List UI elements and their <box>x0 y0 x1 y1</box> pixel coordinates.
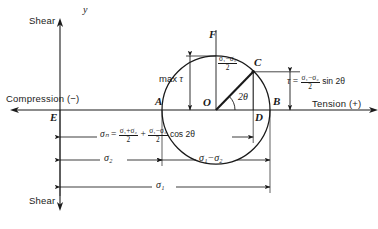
mohrs-circle-figure: y Shear Shear Compression (−) Tension (+… <box>0 0 378 229</box>
radius-fraction-denominator: 2 <box>218 63 237 72</box>
tau-equation-trig: sin 2θ <box>322 76 345 86</box>
shear-bottom-label: Shear <box>29 196 55 206</box>
axis-lines <box>10 18 378 211</box>
sigma-n-equation-equals: = <box>111 129 116 139</box>
sigma-n-equation-label: σₙ = σ₁+σ₂ 2 + σ₁−σ₂ 2 cos 2θ <box>100 127 195 143</box>
compression-axis-label: Compression (−) <box>6 94 79 104</box>
max-tau-prefix: max <box>159 73 177 84</box>
radius-fraction: σ₁−σ₂ 2 <box>218 55 237 71</box>
tension-axis-label: Tension (+) <box>312 99 361 109</box>
sigma-n-term2-denominator: 2 <box>148 135 167 144</box>
point-label-F: F <box>209 29 216 40</box>
radius-fraction-numerator: σ₁−σ₂ <box>218 55 237 63</box>
dimension-label-sigma-diff: σ₁−σ₂ <box>199 153 223 163</box>
tau-equation-equals: = <box>293 76 298 86</box>
tau-equation-lhs: τ <box>287 76 290 86</box>
sigma-n-equation-plus: + <box>140 129 145 139</box>
radius-fraction-label: σ₁−σ₂ 2 <box>218 55 237 71</box>
sigma-n-term2-numerator: σ₁−σ₂ <box>148 127 167 135</box>
sigma-n-term1-denominator: 2 <box>119 135 138 144</box>
tau-equation-numerator: σ₁−σ₂ <box>301 74 320 82</box>
sigma-n-equation-trig: cos 2θ <box>170 129 195 139</box>
max-tau-symbol: τ <box>180 74 183 84</box>
point-label-O: O <box>203 97 211 108</box>
point-label-B: B <box>273 96 280 107</box>
dimension-label-sigma1: σ₁ <box>156 180 164 190</box>
angle-2theta-arc <box>229 97 235 110</box>
sigma-n-equation-lhs: σₙ <box>100 129 109 139</box>
tau-equation-denominator: 2 <box>301 82 320 91</box>
tau-equation-fraction: σ₁−σ₂ 2 <box>301 74 320 90</box>
max-tau-dimension <box>186 56 216 110</box>
point-label-C: C <box>254 57 261 68</box>
point-label-D: D <box>255 112 263 123</box>
tau-equation-label: τ = σ₁−σ₂ 2 sin 2θ <box>287 74 345 90</box>
sigma-n-term1-fraction: σ₁+σ₂ 2 <box>119 127 138 143</box>
point-label-E: E <box>50 112 57 123</box>
sigma-n-term2-fraction: σ₁−σ₂ 2 <box>148 127 167 143</box>
angle-2theta-label: 2θ <box>238 92 248 102</box>
shear-top-label: Shear <box>29 16 55 26</box>
dimension-label-sigma2: σ₂ <box>104 153 112 163</box>
y-axis-variable-label: y <box>83 5 87 15</box>
witness-lines <box>60 110 270 196</box>
sigma-n-term1-numerator: σ₁+σ₂ <box>119 127 138 135</box>
max-tau-label: max τ <box>159 74 183 85</box>
point-label-A: A <box>155 96 162 107</box>
